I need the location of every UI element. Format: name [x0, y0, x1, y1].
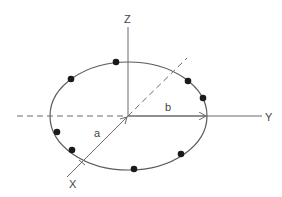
- point-2: [68, 76, 75, 83]
- point-3: [185, 78, 192, 85]
- point-6: [69, 147, 76, 154]
- point-5: [54, 129, 61, 136]
- point-1: [113, 59, 120, 66]
- y-axis-label: Y: [265, 111, 273, 123]
- x-axis-label: X: [69, 178, 77, 190]
- ellipse-diagram: Z Y X a b: [0, 0, 282, 197]
- negative-x-axis-dashed: [128, 58, 187, 116]
- b-label: b: [165, 101, 171, 113]
- a-semi-axis-arrow: [82, 117, 127, 162]
- z-axis-label: Z: [124, 13, 131, 25]
- point-8: [178, 151, 185, 158]
- point-7: [131, 166, 138, 173]
- a-label: a: [94, 127, 101, 139]
- point-4: [200, 95, 207, 102]
